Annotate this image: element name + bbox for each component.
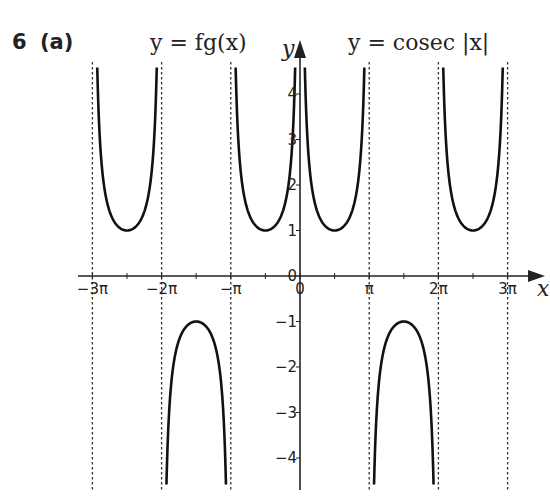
y-tick-label: 0 bbox=[287, 267, 297, 285]
axes bbox=[78, 40, 545, 490]
curve-branch bbox=[374, 322, 434, 485]
curve-branch bbox=[443, 67, 503, 230]
svg-text:y: y bbox=[281, 36, 295, 61]
y-tick-label: −3 bbox=[275, 404, 297, 422]
tick-labels: −3π−2π−π0π2π3π−4−3−2−101234xy bbox=[77, 36, 550, 467]
x-tick-label: 3π bbox=[498, 280, 517, 298]
curve-branch bbox=[305, 67, 365, 230]
x-tick-label: 2π bbox=[429, 280, 448, 298]
y-tick-label: 3 bbox=[287, 131, 297, 149]
x-tick-label: −3π bbox=[77, 280, 108, 298]
y-tick-label: −4 bbox=[275, 449, 297, 467]
x-tick-label: −2π bbox=[146, 280, 177, 298]
y-tick-label: 2 bbox=[287, 176, 297, 194]
x-tick-label: −π bbox=[220, 280, 242, 298]
curve-branch bbox=[166, 322, 226, 485]
y-tick-label: −1 bbox=[275, 313, 297, 331]
y-tick-label: 4 bbox=[287, 85, 297, 103]
y-tick-label: −2 bbox=[275, 358, 297, 376]
y-tick-label: 1 bbox=[287, 222, 297, 240]
graph: −3π−2π−π0π2π3π−4−3−2−101234xy bbox=[0, 0, 550, 498]
curve-branch bbox=[97, 67, 157, 230]
x-tick-label: π bbox=[365, 280, 374, 298]
svg-text:x: x bbox=[537, 276, 550, 301]
curve-branch bbox=[236, 67, 296, 230]
